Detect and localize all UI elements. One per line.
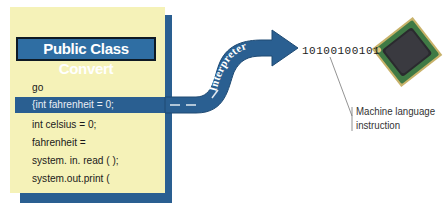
machine-language-caption: Machine language instruction — [356, 104, 435, 132]
caption-line-1: Machine language — [356, 104, 435, 118]
interpreter-arrow: Interpreter — [0, 0, 446, 206]
binary-output: 10100100101 — [302, 45, 380, 57]
caption-line-2: instruction — [356, 118, 435, 132]
cpu-chip-icon — [372, 17, 443, 87]
